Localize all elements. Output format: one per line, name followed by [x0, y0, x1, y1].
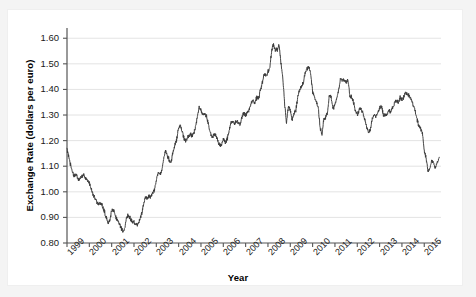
y-tick-label: 1.10: [27, 160, 59, 171]
y-tick-label: 1.60: [27, 32, 59, 43]
y-tick-label: 1.20: [27, 135, 59, 146]
exchange-rate-data-line: [67, 43, 439, 232]
y-tick-label: 1.50: [27, 58, 59, 69]
x-axis-title: Year: [0, 272, 476, 283]
gridlines-group: [67, 38, 441, 217]
y-tick-label: 0.80: [27, 237, 59, 248]
y-tick-label: 1.00: [27, 186, 59, 197]
y-tick-label: 1.40: [27, 83, 59, 94]
y-tick-label: 1.30: [27, 109, 59, 120]
y-tick-label: 0.90: [27, 211, 59, 222]
figure-root: Exchange Rate (dollars per euro) Year 0.…: [0, 0, 476, 297]
